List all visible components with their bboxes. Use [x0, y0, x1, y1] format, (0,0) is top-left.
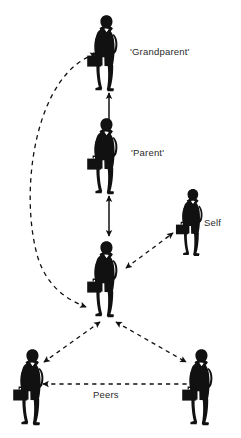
figure-peer-left: [13, 349, 43, 425]
label-parent: 'Parent': [131, 148, 164, 158]
label-peers: Peers: [93, 390, 119, 400]
figure-peer-right: [182, 349, 212, 425]
figure-parent: [87, 118, 117, 194]
figure-grandparent: [87, 15, 117, 91]
connector-center-peer-left: [44, 322, 100, 362]
relationship-diagram: 'Grandparent' 'Parent' Self Peers: [0, 0, 241, 438]
figure-center: [87, 241, 117, 317]
connector-grandparent-center: [30, 54, 96, 307]
label-self: Self: [204, 218, 221, 228]
label-grandparent: 'Grandparent': [130, 47, 190, 57]
connector-center-peer-right: [116, 322, 186, 362]
figure-self: [176, 189, 203, 256]
connector-center-self: [126, 233, 173, 268]
